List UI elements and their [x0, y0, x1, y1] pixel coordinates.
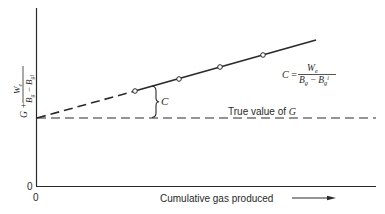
data-point: [261, 53, 266, 58]
x-axis-label: Cumulative gas produced: [160, 193, 273, 204]
formula-den-minus: −: [308, 75, 318, 85]
brace-icon: [152, 86, 159, 118]
formula-c: C = We Bg − Bgi: [282, 63, 336, 86]
y-label-numerator-sub: e: [17, 84, 23, 87]
svg-text:We: We: [307, 63, 318, 74]
svg-text:Bg − Bgi: Bg − Bgi: [24, 74, 35, 103]
formula-equals: =: [289, 69, 298, 80]
data-point: [177, 77, 182, 82]
data-point: [133, 89, 138, 94]
svg-text:Bg − Bgi: Bg − Bgi: [299, 75, 329, 86]
material-balance-diagram: C True value of G C = We Bg − Bgi G + We…: [0, 0, 385, 214]
y-label-den-b-sub: gi: [29, 74, 35, 79]
y-origin-label: 0: [27, 181, 33, 192]
formula-den-b-sup: i: [327, 75, 329, 81]
y-label-den-minus: −: [24, 85, 34, 95]
data-trend-line: [133, 40, 316, 92]
true-value-var: G: [289, 106, 296, 117]
y-axis-label: G + We Bg − Bgi: [12, 66, 35, 118]
svg-text:We: We: [12, 84, 23, 95]
svg-text:C =: C =: [282, 69, 297, 80]
brace-label: C: [161, 95, 169, 107]
extrapolation-dashed-line: [37, 92, 133, 119]
data-point: [218, 65, 223, 70]
formula-numerator-sub: e: [315, 67, 318, 74]
svg-text:G +: G +: [19, 102, 29, 118]
x-origin-label: 0: [33, 192, 39, 203]
true-value-label: True value of G: [228, 106, 296, 117]
y-label-prefix: G +: [19, 102, 29, 118]
arrow-right-icon: [327, 196, 336, 200]
true-value-text: True value of: [228, 106, 289, 117]
